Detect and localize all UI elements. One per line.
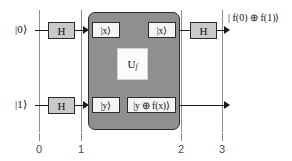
quantum-circuit-diagram: 0 1 2 3 |0⟩ |1⟩ H H H |x⟩ |x⟩ |y⟩ |y ⊕ f… — [0, 0, 292, 161]
timeline-tick-2 — [181, 133, 182, 141]
wire-bottom-arrow-out — [224, 101, 230, 109]
wire-top-arrow-out — [224, 26, 230, 34]
timeline-label-2: 2 — [174, 143, 188, 155]
wire-bottom-segment-in — [35, 105, 49, 106]
timeline-line-1 — [81, 10, 82, 132]
wire-top-segment-in — [35, 30, 49, 31]
oracle-uf-label-box: Uf — [117, 48, 148, 80]
output-label-top: | f(0) ⊕ f(1)⟩ — [228, 12, 279, 23]
timeline-line-3 — [222, 10, 223, 132]
timeline-tick-3 — [222, 133, 223, 141]
timeline-line-0 — [39, 10, 40, 132]
oracle-uf-letter: U — [127, 58, 135, 70]
hadamard-gate-top-right[interactable]: H — [190, 22, 217, 39]
oracle-uf-subscript: f — [135, 62, 137, 71]
wire-bottom-segment-out — [176, 105, 226, 106]
timeline-label-0: 0 — [32, 143, 46, 155]
timeline-label-3: 3 — [215, 143, 229, 155]
input-label-qubit0: |0⟩ — [15, 23, 27, 36]
timeline-tick-1 — [81, 133, 82, 141]
oracle-input-register-top: |x⟩ — [92, 22, 120, 38]
hadamard-gate-top-left[interactable]: H — [48, 22, 75, 39]
input-label-qubit1: |1⟩ — [15, 98, 27, 111]
oracle-output-register-top: |x⟩ — [148, 22, 176, 38]
oracle-output-register-bottom: |y ⊕ f(x)⟩ — [127, 97, 176, 113]
timeline-line-2 — [181, 10, 182, 132]
hadamard-gate-bottom-left[interactable]: H — [48, 97, 75, 114]
timeline-tick-0 — [39, 133, 40, 141]
oracle-input-register-bottom: |y⟩ — [92, 97, 120, 113]
timeline-label-1: 1 — [74, 143, 88, 155]
